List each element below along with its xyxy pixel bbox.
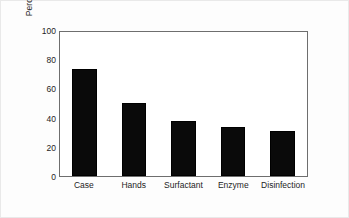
x-tick-label-case: Case — [59, 181, 109, 190]
bar-slot — [109, 32, 158, 176]
x-tick-label-hands: Hands — [109, 181, 159, 190]
bar-slot — [159, 32, 208, 176]
bar-chart-figure: Percentage of subjects 100 80 60 40 20 0 — [0, 0, 349, 218]
x-axis-tick-labels: Case Hands Surfactant Enzyme Disinfectio… — [59, 181, 308, 190]
bar-case[interactable] — [72, 69, 97, 176]
y-tick-label: 20 — [34, 144, 56, 153]
bar-slot — [60, 32, 109, 176]
bar-slot — [258, 32, 307, 176]
bar-surfactant[interactable] — [171, 121, 196, 176]
bar-hands[interactable] — [122, 103, 147, 176]
y-tick-label: 60 — [34, 85, 56, 94]
y-tick-label: 100 — [34, 27, 56, 36]
y-tick-label: 40 — [34, 114, 56, 123]
y-tick-label: 0 — [34, 173, 56, 182]
x-tick-label-disinfection: Disinfection — [258, 181, 308, 190]
x-tick-label-enzyme: Enzyme — [208, 181, 258, 190]
bar-disinfection[interactable] — [270, 131, 295, 176]
bar-enzyme[interactable] — [221, 127, 246, 176]
y-axis-tick-labels: 100 80 60 40 20 0 — [34, 31, 56, 177]
x-tick-label-surfactant: Surfactant — [159, 181, 209, 190]
y-tick-label: 80 — [34, 56, 56, 65]
bar-slot — [208, 32, 257, 176]
bars-container — [60, 32, 307, 176]
plot-area — [59, 31, 308, 177]
